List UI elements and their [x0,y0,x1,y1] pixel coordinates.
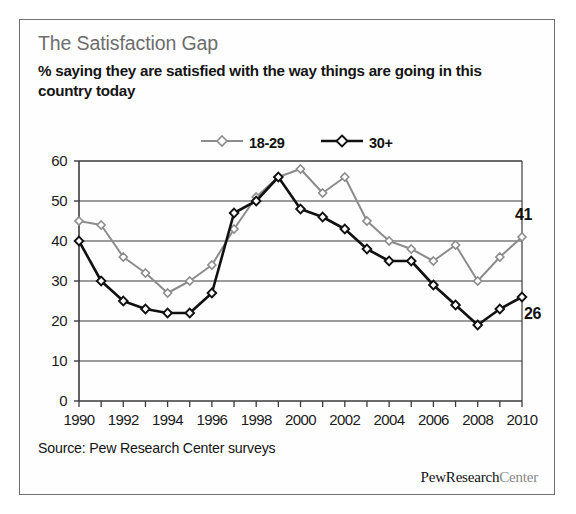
y-axis-tick-label: 50 [33,192,67,209]
x-axis-tick-label: 2000 [278,411,324,428]
end-label-30-plus: 26 [524,305,541,323]
chart-figure: The Satisfaction Gap % saying they are s… [19,19,555,495]
y-axis-tick-label: 20 [33,312,67,329]
x-axis-tick-label: 2008 [455,411,501,428]
y-axis-tick-label: 0 [33,392,67,409]
end-label-18-29: 41 [515,206,532,224]
data-point-marker [141,305,150,314]
brand-primary: PewResearch [421,469,500,485]
y-axis-tick-label: 30 [33,272,67,289]
x-axis-tick-label: 2002 [322,411,368,428]
x-axis-tick-label: 1998 [233,411,279,428]
x-axis-tick-label: 1994 [145,411,191,428]
brand-secondary: Center [499,469,538,485]
x-axis-tick-label: 1996 [189,411,235,428]
x-axis-tick-label: 2006 [410,411,456,428]
y-axis-tick-label: 10 [33,352,67,369]
y-axis-tick-label: 40 [33,232,67,249]
x-axis-tick-label: 2004 [366,411,412,428]
x-axis-tick-label: 1992 [100,411,146,428]
pew-research-center-logo: PewResearchCenter [421,469,538,486]
source-note: Source: Pew Research Center surveys [38,440,275,456]
x-axis-tick-label: 1990 [56,411,102,428]
data-point-marker [75,217,83,225]
y-axis-tick-label: 60 [33,152,67,169]
x-axis-tick-label: 2010 [499,411,545,428]
data-point-marker [407,245,415,253]
data-point-marker [163,309,172,318]
